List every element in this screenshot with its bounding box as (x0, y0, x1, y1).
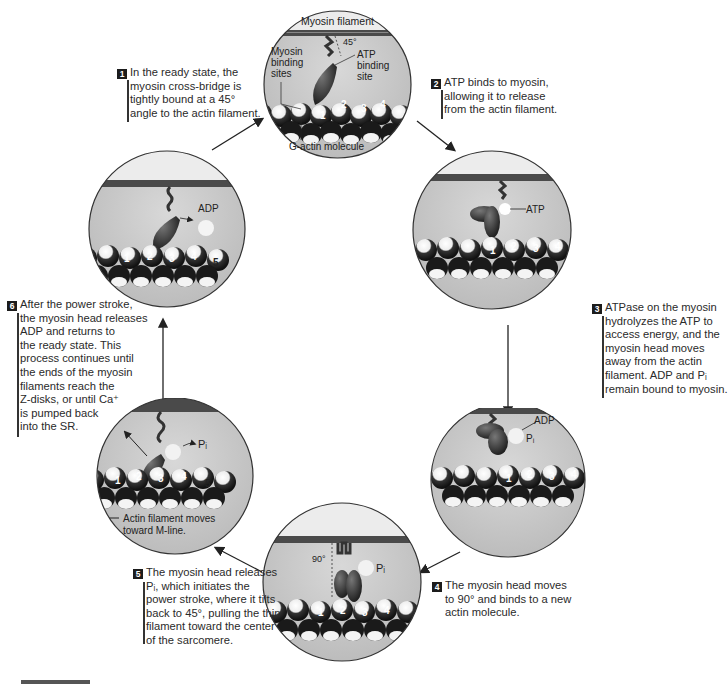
actin-number: 1 (318, 607, 324, 618)
step-text-line: is pumped back (20, 407, 148, 421)
actin-number: 1 (320, 110, 326, 121)
step-text-line: access energy, and the (605, 328, 728, 342)
actin-number: 2 (147, 251, 153, 262)
step-text-line: allowing it to release (444, 90, 557, 104)
actin-number: 4 (380, 99, 386, 110)
label-adp: ADP (534, 415, 555, 426)
actin-number: 2 (511, 241, 517, 252)
step-4-text: The myosin head moves to 90° and binds t… (445, 579, 571, 620)
actin-number: 4 (181, 471, 187, 482)
actin-number: 4 (571, 469, 577, 480)
step-1-text: In the ready state, the myosin cross-bri… (130, 66, 261, 120)
actin-number: 5 (205, 478, 211, 489)
label-myosin-binding-sites: Myosin (271, 46, 303, 57)
step-text-line: The myosin head moves (445, 579, 571, 593)
step-text-line: filaments reach the (20, 380, 148, 394)
step-text-line: into the SR. (20, 420, 148, 434)
step-4-badge: 4 (432, 582, 442, 592)
step-text-line: to 90° and binds to a new (445, 593, 571, 607)
arrow-1-to-2 (417, 121, 454, 150)
arrow-6-to-1 (212, 119, 262, 150)
actin-number: 1 (506, 473, 512, 484)
label-myosin-filament: Myosin filament (301, 15, 374, 27)
step-text-line: ADP and returns to (20, 325, 148, 339)
step-text-line: The myosin head releases (146, 566, 280, 580)
actin-number: 3 (549, 471, 555, 482)
step-6-text: After the power stroke, the myosin head … (20, 298, 148, 434)
step-text-line: process continues until (20, 352, 148, 366)
step-text-line: ATPase on the myosin (605, 301, 728, 315)
actin-number: 4 (191, 251, 197, 262)
step-text-line: ATP binds to myosin, (444, 76, 557, 90)
step-text-line: back to 45°, pulling the thin (146, 607, 280, 621)
panel-adp-release: ADP 1 2 3 4 5 (88, 150, 246, 308)
actin-number: 5 (213, 257, 219, 268)
actin-number: 3 (158, 473, 164, 484)
actin-number: 1 (115, 475, 121, 486)
step-text-line: the myosin head releases (20, 312, 148, 326)
label-actin-filament-moves: Actin filament moves (123, 513, 215, 524)
step-text-line: remain bound to myosin. (605, 383, 728, 397)
actin-number: 2 (340, 605, 346, 616)
step-text-line: Pᵢ, which initiates the (146, 580, 280, 594)
label-atp: ATP (526, 204, 545, 215)
step-text-line: away from the actin (605, 355, 728, 369)
step-text-line: the ready state. This (20, 339, 148, 353)
label-myosin-binding-sites-3: sites (271, 68, 292, 79)
step-2-rule (441, 90, 443, 119)
step-3-badge: 3 (592, 304, 602, 314)
label-myosin-binding-sites-2: binding (271, 57, 303, 68)
label-90-degrees: 90° (312, 554, 326, 564)
step-text-line: angle to the actin filament. (130, 107, 261, 121)
actin-number: 3 (169, 253, 175, 264)
step-1-rule (127, 80, 129, 122)
panel-ready-state: Myosin filament 45° Myosin binding sites… (263, 10, 412, 159)
bottom-tab-bar (21, 680, 90, 684)
label-atp-binding-site: ATP (357, 49, 376, 60)
step-5-rule (143, 582, 145, 644)
actin-number: 2 (341, 99, 347, 110)
step-1-badge: 1 (117, 69, 127, 79)
step-text-line: tightly bound at a 45° (130, 93, 261, 107)
label-pi: Pᵢ (526, 433, 535, 444)
actin-number: 2 (136, 471, 142, 482)
actin-number: 3 (361, 103, 367, 114)
step-3-text: ATPase on the myosin hydrolyzes the ATP … (605, 301, 728, 396)
step-3-rule (602, 316, 604, 398)
label-g-actin-molecule: G-actin molecule (289, 141, 364, 152)
panel-atp-binds: ATP 1 2 3 4 (412, 150, 572, 310)
step-6-badge: 6 (7, 301, 17, 311)
actin-number: 3 (362, 607, 368, 618)
step-text-line: Z-disks, or until Ca⁺ (20, 393, 148, 407)
step-text-line: In the ready state, the (130, 66, 261, 80)
step-5-badge: 5 (133, 569, 143, 579)
step-text-line: filament toward the center (146, 620, 280, 634)
actin-number: 2 (527, 469, 533, 480)
actin-number: 4 (555, 241, 561, 252)
step-2-text: ATP binds to myosin, allowing it to rele… (444, 76, 557, 117)
label-pi: Pᵢ (198, 438, 207, 450)
step-text-line: actin molecule. (445, 606, 571, 620)
actin-number: 3 (533, 243, 539, 254)
actin-number: 1 (124, 253, 130, 264)
step-text-line: from the actin filament. (444, 103, 557, 117)
step-5-text: The myosin head releases Pᵢ, which initi… (146, 566, 280, 648)
step-text-line: myosin cross-bridge is (130, 80, 261, 94)
step-text-line: of the sarcomere. (146, 634, 280, 648)
step-2-badge: 2 (431, 79, 441, 89)
step-text-line: myosin head moves (605, 342, 728, 356)
step-text-line: the ends of the myosin (20, 366, 148, 380)
label-atp-binding-site-3: site (357, 71, 373, 82)
step-6-rule (17, 313, 19, 437)
actin-number: 4 (384, 605, 390, 616)
panel-90-degrees: 90° Pᵢ 1 2 3 4 (262, 502, 422, 662)
actin-number: 1 (490, 245, 496, 256)
panel-atp-hydrolysis: ADP Pᵢ 1 2 3 4 (428, 408, 588, 558)
label-toward-m-line: toward M-line. (123, 525, 186, 536)
step-text-line: filament. ADP and Pᵢ (605, 369, 728, 383)
label-atp-binding-site-2: binding (357, 60, 389, 71)
label-pi: Pᵢ (376, 562, 385, 574)
step-text-line: power stroke, where it tilts (146, 593, 280, 607)
label-45-degrees: 45° (343, 37, 357, 47)
label-adp: ADP (198, 203, 219, 214)
